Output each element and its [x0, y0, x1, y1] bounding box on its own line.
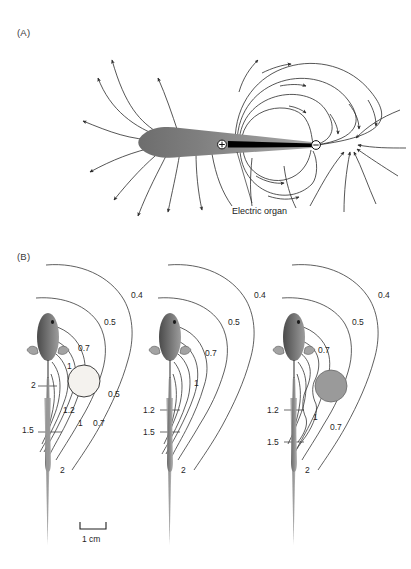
panel-b-fish-1-group [27, 265, 132, 545]
field-loops-lower [240, 150, 317, 195]
contour-label: 2 [31, 380, 36, 390]
contour-label: 2 [60, 465, 65, 475]
contour-label: 1 [78, 418, 83, 428]
contour-label: 0.4 [131, 290, 143, 300]
fish-2 [149, 313, 191, 545]
scale-bar-label: 1 cm [82, 534, 100, 544]
contour-label: 0.4 [254, 290, 266, 300]
fish-3 [273, 313, 315, 545]
contour-label: 0.7 [78, 343, 90, 353]
contour-label: 2 [305, 465, 310, 475]
electric-organ-label: Electric organ [232, 206, 287, 216]
contour-label: 1.5 [267, 437, 279, 447]
contour-label: 1.2 [143, 405, 155, 415]
contour-label: 0.7 [318, 345, 330, 355]
contour-label: 2 [181, 465, 186, 475]
contour-label: 1 [67, 361, 72, 371]
contour-label: 0.5 [108, 389, 120, 399]
field-lines-tail [310, 110, 406, 212]
contour-label: 0.5 [104, 317, 116, 327]
contour-label: 0.5 [352, 317, 364, 327]
contour-label: 0.7 [93, 418, 105, 428]
panel-b-fish-2-group [149, 265, 254, 545]
conducting-object [315, 370, 347, 402]
contour-label: 1.5 [22, 425, 34, 435]
field-loops-upper [235, 63, 382, 145]
contour-label: 0.7 [205, 348, 217, 358]
contour-label: 0.4 [378, 290, 390, 300]
nonconducting-object [68, 365, 100, 397]
scale-bar [80, 522, 106, 529]
contour-label: 1 [313, 412, 318, 422]
contour-label: 0.5 [228, 317, 240, 327]
contour-label: 0.7 [330, 422, 342, 432]
panel-a-group [83, 60, 406, 216]
field-loop-lower-arrows [256, 176, 299, 199]
contour-label: 1.2 [63, 405, 75, 415]
field-lines-descending [212, 154, 296, 208]
panel-b-fish-3-group [273, 265, 378, 545]
contour-label: 1.5 [143, 427, 155, 437]
contour-label: 1 [194, 378, 199, 388]
contour-label: 1.2 [267, 405, 279, 415]
figure-electric-fish-field: (A) (B) [0, 0, 411, 569]
figure-vector-layer [0, 0, 411, 569]
